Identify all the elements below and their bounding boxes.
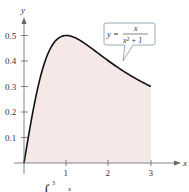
y-tick-0.3: 0.3 xyxy=(5,82,17,92)
y-axis-label: y xyxy=(20,5,25,15)
x-tick-3: 3 xyxy=(149,168,154,178)
x-tick-1: 1 xyxy=(64,168,69,178)
y-axis-arrow-icon xyxy=(22,17,27,24)
y-tick-0.2: 0.2 xyxy=(5,107,16,117)
y-tick-0.1: 0.1 xyxy=(5,133,16,143)
equation-lhs: y = xyxy=(106,29,119,39)
equation-numerator: x xyxy=(133,24,138,33)
chart: x y 1 2 3 0.1 0.2 0.3 0.4 0.5 y = x x² +… xyxy=(0,0,189,192)
equation-denominator: x² + 1 xyxy=(122,36,142,45)
y-ticks xyxy=(21,36,28,138)
caption-numerator: x xyxy=(67,185,72,192)
y-tick-0.4: 0.4 xyxy=(5,56,17,66)
x-tick-2: 2 xyxy=(106,168,111,178)
x-axis-label: x xyxy=(182,158,187,168)
y-tick-0.5: 0.5 xyxy=(5,31,17,41)
x-axis-arrow-icon xyxy=(174,161,181,166)
caption-integral: ∫ xyxy=(43,182,50,192)
caption-upper-limit: 3 xyxy=(52,180,55,186)
shaded-region xyxy=(24,36,151,164)
equation-callout: y = x x² + 1 xyxy=(104,23,155,61)
